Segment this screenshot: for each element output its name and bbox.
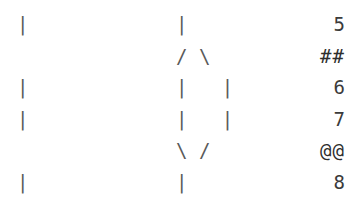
center-lane-glyph: / \ [170,41,282,73]
graph-grid: | | 5 / \ ## | | | 6 | | | 7 \ / @@ | | [0,0,359,203]
row-label: 5 [282,9,359,41]
center-lane-glyph: | | [170,72,282,104]
graph-row: | | 5 [0,9,359,41]
left-lane-glyph: | [0,72,170,104]
row-label: 8 [282,167,359,199]
graph-row: | | | 6 [0,72,359,104]
graph-row: \ / @@ [0,135,359,167]
left-lane-glyph [0,41,170,73]
graph-row: | | 8 [0,167,359,199]
row-label: ## [282,41,359,73]
left-lane-glyph [0,135,170,167]
row-label: 6 [282,72,359,104]
center-lane-glyph: | [170,167,282,199]
left-lane-glyph: | [0,9,170,41]
left-lane-glyph: | [0,104,170,136]
graph-row: / \ ## [0,41,359,73]
row-label: 7 [282,104,359,136]
center-lane-glyph: \ / [170,135,282,167]
center-lane-glyph: | [170,9,282,41]
left-lane-glyph: | [0,167,170,199]
row-label: @@ [282,135,359,167]
ascii-commit-graph: | | 5 / \ ## | | | 6 | | | 7 \ / @@ | | [0,0,359,203]
graph-row: | | | 7 [0,104,359,136]
center-lane-glyph: | | [170,104,282,136]
